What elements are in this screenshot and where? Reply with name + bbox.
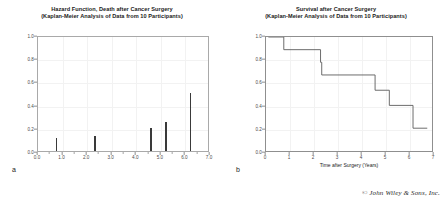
x-axis-tick-label: 0 xyxy=(264,155,267,160)
x-axis-tick-label: 7.0 xyxy=(206,155,212,160)
x-axis-tick-mark xyxy=(433,152,434,155)
gridline-vertical xyxy=(112,37,113,151)
y-axis-tick-label: 0.0 xyxy=(8,150,37,155)
panel-a-title-line2: (Kaplan-Meier Analysis of Data from 10 P… xyxy=(0,13,224,20)
y-axis-tick-mark xyxy=(34,105,37,106)
y-axis-tick-label: 0.4 xyxy=(8,103,37,108)
panel-b-title: Survival after Cancer Surgery (Kaplan-Me… xyxy=(224,6,448,21)
gridline-horizontal xyxy=(38,130,208,131)
x-axis-tick-label: 4 xyxy=(360,155,363,160)
figure-container: Hazard Function, Death after Cancer Surg… xyxy=(0,0,448,202)
hazard-plot: Hazard (Probability of Death) 0.00.20.40… xyxy=(37,36,209,152)
survival-plot-area xyxy=(265,36,433,152)
panel-a-hazard-chart: Hazard Function, Death after Cancer Surg… xyxy=(0,0,224,180)
survival-plot: Fraction of Population Surviving 0.00.20… xyxy=(265,36,433,152)
x-axis-minor-tick xyxy=(74,152,75,154)
x-axis-tick-mark xyxy=(385,152,386,155)
y-axis-tick-label: 0.8 xyxy=(236,57,265,62)
y-axis-tick-mark xyxy=(34,36,37,37)
hazard-bar xyxy=(150,128,152,151)
km-survival-step-line xyxy=(268,37,427,128)
panel-letter-a: a xyxy=(12,166,16,173)
panel-b-title-line1: Survival after Cancer Surgery xyxy=(296,6,376,12)
x-axis-tick-mark xyxy=(289,152,290,155)
hazard-plot-area xyxy=(37,36,209,152)
panel-b-title-line2: (Kaplan-Meier Analysis of Data from 10 P… xyxy=(224,13,448,20)
x-axis-tick-label: 1.0 xyxy=(58,155,64,160)
x-axis-tick-mark xyxy=(110,152,111,155)
x-axis-tick-mark xyxy=(135,152,136,155)
y-axis-tick-mark xyxy=(34,59,37,60)
y-axis-tick-label: 0.2 xyxy=(8,126,37,131)
x-axis-tick-label: 3 xyxy=(336,155,339,160)
panel-b-survival-chart: Survival after Cancer Surgery (Kaplan-Me… xyxy=(224,0,448,180)
x-axis-tick-mark xyxy=(37,152,38,155)
x-axis-tick-label: 6 xyxy=(408,155,411,160)
survival-x-axis-label: Time after Surgery (Years) xyxy=(265,162,433,168)
x-axis-tick-mark xyxy=(337,152,338,155)
x-axis-tick-label: 5 xyxy=(384,155,387,160)
x-axis-tick-label: 1 xyxy=(288,155,291,160)
y-axis-tick-label: 0.4 xyxy=(236,103,265,108)
x-axis-tick-mark xyxy=(160,152,161,155)
x-axis-tick-mark xyxy=(409,152,410,155)
hazard-bar xyxy=(190,93,192,151)
y-axis-tick-label: 0.6 xyxy=(236,80,265,85)
x-axis-tick-label: 4.0 xyxy=(132,155,138,160)
y-axis-tick-label: 0.6 xyxy=(8,80,37,85)
x-axis-minor-tick xyxy=(123,152,124,154)
panel-a-title-line1: Hazard Function, Death after Cancer Surg… xyxy=(51,6,173,12)
hazard-bar xyxy=(165,122,167,151)
y-axis-tick-mark xyxy=(262,36,265,37)
x-axis-tick-label: 2 xyxy=(312,155,315,160)
y-axis-tick-mark xyxy=(262,59,265,60)
x-axis-tick-mark xyxy=(209,152,210,155)
x-axis-tick-label: 5.0 xyxy=(157,155,163,160)
x-axis-minor-tick xyxy=(147,152,148,154)
x-axis-tick-mark xyxy=(265,152,266,155)
y-axis-tick-label: 0.0 xyxy=(236,150,265,155)
gridline-vertical xyxy=(136,37,137,151)
panel-a-title: Hazard Function, Death after Cancer Surg… xyxy=(0,6,224,21)
y-axis-tick-mark xyxy=(34,82,37,83)
hazard-bar xyxy=(56,138,58,151)
y-axis-tick-mark xyxy=(34,128,37,129)
y-axis-tick-mark xyxy=(262,128,265,129)
gridline-horizontal xyxy=(38,107,208,108)
gridline-vertical xyxy=(161,37,162,151)
panel-letter-b: b xyxy=(236,166,240,173)
copyright-notice: © John Wiley & Sons, Inc. xyxy=(362,189,440,197)
y-axis-tick-label: 0.8 xyxy=(8,57,37,62)
x-axis-minor-tick xyxy=(49,152,50,154)
gridline-horizontal xyxy=(38,60,208,61)
x-axis-tick-mark xyxy=(61,152,62,155)
y-axis-tick-mark xyxy=(262,82,265,83)
x-axis-tick-label: 6.0 xyxy=(181,155,187,160)
x-axis-tick-label: 0.0 xyxy=(34,155,40,160)
x-axis-tick-mark xyxy=(86,152,87,155)
gridline-vertical xyxy=(63,37,64,151)
x-axis-tick-label: 2.0 xyxy=(83,155,89,160)
x-axis-minor-tick xyxy=(196,152,197,154)
y-axis-tick-mark xyxy=(262,105,265,106)
x-axis-minor-tick xyxy=(98,152,99,154)
gridline-horizontal xyxy=(38,83,208,84)
x-axis-tick-label: 3.0 xyxy=(108,155,114,160)
gridline-vertical xyxy=(87,37,88,151)
y-axis-tick-label: 1.0 xyxy=(236,34,265,39)
km-curve xyxy=(266,37,432,151)
x-axis-tick-mark xyxy=(361,152,362,155)
x-axis-tick-mark xyxy=(313,152,314,155)
y-axis-tick-label: 1.0 xyxy=(8,34,37,39)
x-axis-minor-tick xyxy=(172,152,173,154)
x-axis-tick-label: 7 xyxy=(432,155,435,160)
gridline-vertical xyxy=(185,37,186,151)
hazard-bar xyxy=(95,136,97,151)
y-axis-tick-label: 0.2 xyxy=(236,126,265,131)
x-axis-tick-mark xyxy=(184,152,185,155)
